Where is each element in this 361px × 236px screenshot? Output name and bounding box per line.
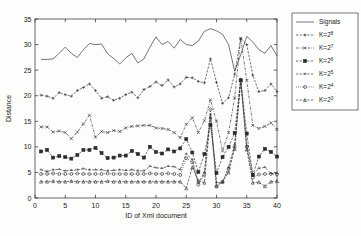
x-tick-label: 40: [273, 202, 281, 209]
axes-group: [35, 19, 277, 198]
data-marker: [70, 157, 73, 160]
data-marker: [173, 172, 176, 175]
x-axis-title: ID of Xml document: [125, 212, 187, 219]
series-line: [41, 80, 277, 175]
data-marker: [112, 180, 115, 183]
data-marker: [82, 148, 85, 151]
axis-labels-group: 051015202530354005101520253035ID of Xml …: [5, 16, 281, 219]
data-marker: [263, 147, 266, 150]
data-marker: [227, 145, 230, 148]
data-marker: [203, 153, 206, 156]
y-tick-label: 35: [24, 16, 32, 23]
data-marker: [148, 145, 151, 148]
data-marker: [46, 148, 49, 151]
plot-frame: [35, 19, 277, 198]
data-marker: [257, 155, 260, 158]
y-tick-label: 15: [24, 118, 32, 125]
series-4: [40, 78, 279, 183]
x-tick-label: 20: [152, 202, 160, 209]
data-marker: [191, 151, 194, 154]
x-tick-label: 0: [33, 202, 37, 209]
data-series-group: [40, 29, 279, 190]
data-marker: [179, 147, 182, 150]
series-line: [41, 38, 277, 151]
data-marker: [112, 156, 115, 159]
x-tick-label: 15: [122, 202, 130, 209]
x-tick-label: 30: [213, 202, 221, 209]
x-tick-label: 35: [243, 202, 251, 209]
series-2: [40, 37, 279, 153]
data-marker: [269, 180, 272, 183]
data-marker: [161, 180, 164, 183]
data-marker: [94, 146, 97, 149]
data-marker: [142, 156, 145, 159]
data-marker: [40, 150, 43, 153]
data-marker: [221, 156, 224, 159]
legend-label: Signals: [319, 18, 341, 26]
y-tick-label: 5: [28, 169, 32, 176]
series-1: [40, 37, 279, 105]
chart-legend[interactable]: SignalsK=28K=27K=26K=25K=24K=23: [292, 13, 358, 110]
data-marker: [124, 180, 127, 183]
data-marker: [76, 180, 79, 183]
data-marker: [118, 154, 121, 157]
data-marker: [58, 180, 61, 183]
data-marker: [136, 153, 139, 156]
data-marker: [269, 150, 272, 153]
y-tick-label: 30: [24, 41, 32, 48]
data-marker: [185, 157, 188, 160]
data-marker: [155, 150, 158, 153]
data-marker: [173, 150, 176, 153]
series-line: [41, 29, 277, 71]
data-marker: [167, 148, 170, 151]
data-marker: [64, 156, 67, 159]
y-axis-title: Distance: [5, 95, 12, 122]
data-marker: [276, 155, 279, 158]
x-tick-label: 10: [92, 202, 100, 209]
y-tick-label: 10: [24, 143, 32, 150]
x-tick-label: 25: [182, 202, 190, 209]
series-line: [41, 38, 277, 103]
data-marker: [88, 148, 91, 151]
data-marker: [76, 154, 79, 157]
chart-canvas: 051015202530354005101520253035ID of Xml …: [0, 0, 361, 236]
data-marker: [124, 154, 127, 157]
y-tick-label: 25: [24, 67, 32, 74]
data-marker: [106, 157, 109, 160]
data-marker: [197, 170, 200, 173]
data-marker: [304, 60, 307, 63]
data-marker: [52, 156, 55, 159]
y-tick-label: 0: [28, 195, 32, 202]
y-tick-label: 20: [24, 92, 32, 99]
figure-container: 051015202530354005101520253035ID of Xml …: [0, 0, 361, 236]
data-marker: [257, 181, 260, 184]
data-marker: [94, 180, 97, 183]
series-0: [41, 29, 277, 71]
data-marker: [142, 180, 145, 183]
data-marker: [161, 152, 164, 155]
data-marker: [94, 172, 97, 175]
x-tick-label: 5: [63, 202, 67, 209]
data-marker: [58, 155, 61, 158]
data-marker: [185, 138, 188, 141]
data-marker: [100, 151, 103, 154]
data-marker: [130, 149, 133, 152]
series-3: [40, 79, 279, 177]
